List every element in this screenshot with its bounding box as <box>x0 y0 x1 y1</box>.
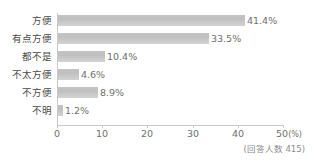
bar-rows: 方便 41.4% 有点方便 33.5% 都不是 10.4% 不太方便 <box>0 14 315 122</box>
bar-value-label: 41.4% <box>245 15 277 27</box>
x-tick-label: 10 <box>96 128 108 140</box>
bar-fill <box>58 87 98 98</box>
x-tick-label: 20 <box>141 128 153 140</box>
bar-group: 41.4% <box>58 15 277 26</box>
bar-fill <box>58 51 105 62</box>
bar-fill <box>58 15 245 26</box>
bar-row: 不方便 8.9% <box>0 86 315 104</box>
bar-group: 4.6% <box>58 69 105 80</box>
bar-value-label: 8.9% <box>98 87 124 99</box>
x-tick-label: 0 <box>54 128 60 140</box>
category-label: 不明 <box>32 104 52 123</box>
category-label: 不太方便 <box>12 68 52 87</box>
x-tick-label: 30 <box>187 128 199 140</box>
bar-row: 有点方便 33.5% <box>0 32 315 50</box>
bar-group: 8.9% <box>58 87 124 98</box>
bar-fill <box>58 69 79 80</box>
category-label: 都不是 <box>22 50 52 69</box>
plot-area: 方便 41.4% 有点方便 33.5% 都不是 10.4% 不太方便 <box>0 0 315 164</box>
bar-group: 10.4% <box>58 51 137 62</box>
bar-row: 不明 1.2% <box>0 104 315 122</box>
x-axis-line <box>57 125 283 126</box>
bar-row: 不太方便 4.6% <box>0 68 315 86</box>
bar-value-label: 10.4% <box>105 51 137 63</box>
bar-group: 33.5% <box>58 33 241 44</box>
x-tick-label: 40 <box>232 128 244 140</box>
bar-group: 1.2% <box>58 105 89 116</box>
bar-row: 方便 41.4% <box>0 14 315 32</box>
bar-row: 都不是 10.4% <box>0 50 315 68</box>
bar-value-label: 4.6% <box>79 69 105 81</box>
category-label: 方便 <box>32 14 52 33</box>
x-axis-tick-labels: 0 10 20 30 40 50(%) <box>0 128 315 142</box>
bar-value-label: 33.5% <box>209 33 241 45</box>
category-label: 有点方便 <box>12 32 52 51</box>
x-tick-label-last: 50(%) <box>276 128 302 141</box>
x-axis-unit-label: (%) <box>288 130 302 139</box>
bar-value-label: 1.2% <box>63 105 89 117</box>
x-tick-label-value: 50 <box>276 128 288 139</box>
bar-fill <box>58 33 209 44</box>
category-label: 不方便 <box>22 86 52 105</box>
respondents-annotation: (回答人数 415) <box>243 144 305 155</box>
bar-chart: 方便 41.4% 有点方便 33.5% 都不是 10.4% 不太方便 <box>0 0 315 164</box>
